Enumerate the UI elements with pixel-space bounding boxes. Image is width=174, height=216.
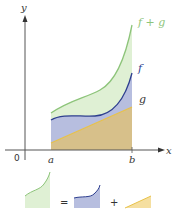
- f-plus-g-label: f + g: [137, 16, 165, 29]
- y-axis-label: y: [20, 2, 27, 13]
- y-axis-arrow-icon: [23, 15, 28, 22]
- mini-f-plus-g-area: [25, 172, 50, 208]
- a-label: a: [48, 154, 54, 165]
- plus-sign: +: [110, 197, 118, 208]
- x-axis-label: x: [166, 145, 172, 156]
- origin-label: 0: [14, 153, 20, 163]
- area-sum-diagram: y x 0 a b f + g f g = +: [0, 0, 174, 216]
- b-label: b: [129, 154, 135, 165]
- f-label: f: [137, 62, 144, 75]
- equation-row: = +: [25, 172, 151, 208]
- g-label: g: [139, 93, 146, 106]
- equals-sign: =: [60, 197, 68, 208]
- x-axis-arrow-icon: [158, 148, 165, 153]
